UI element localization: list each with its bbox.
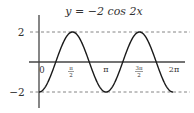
chart-title: y = −2 cos 2x xyxy=(64,5,143,18)
x-tick-label-2pi: 2π xyxy=(169,65,179,74)
chart: y = −2 cos 2x 2 −2 0 π 2 π 3π 2 2π xyxy=(0,0,194,113)
x-tick-label-pi-half-den: 2 xyxy=(69,72,73,78)
x-tick-label-3pi-half-den: 2 xyxy=(137,72,141,78)
x-tick-label-pi: π xyxy=(103,65,108,74)
x-tick-label-pi-half-num: π xyxy=(69,65,73,71)
y-tick-label-2: 2 xyxy=(18,26,25,38)
x-tick-label-0: 0 xyxy=(39,65,44,75)
x-tick-label-3pi-half-num: 3π xyxy=(135,65,142,71)
y-tick-label-neg2: −2 xyxy=(9,86,24,98)
